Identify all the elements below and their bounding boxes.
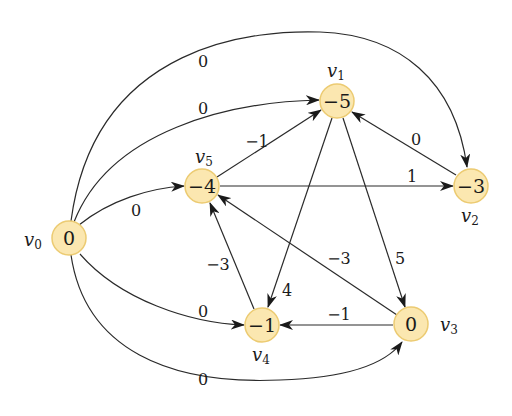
weight-v2-v1: 0 [411,130,421,149]
weight-v0-v3: 0 [198,370,208,389]
node-label: v4 [252,344,270,367]
weight-v0-v4: 0 [198,302,208,321]
node-value: −5 [323,90,351,112]
node-v5: −4 v5 [185,146,219,203]
edge-v1-v4 [268,118,332,307]
node-v2: −3 v2 [454,169,488,228]
edge-v3-v5 [218,195,397,315]
graph-canvas: 0 0 0 0 0 −1 1 0 4 5 −3 −3 −1 0 v0 −5 v1… [0,0,512,416]
node-value: 0 [405,313,417,335]
node-label: v3 [440,314,458,337]
weight-v0-v1: 0 [198,99,208,118]
weight-v1-v3: 5 [395,249,405,268]
node-label: v2 [461,205,479,228]
weight-v5-v1: −1 [245,132,269,151]
edge-v0-v3 [71,255,402,380]
edge-v0-v2 [71,32,467,221]
node-label: v0 [24,229,42,252]
node-v1: −5 v1 [320,60,354,118]
edge-v2-v1 [352,112,456,175]
weight-v1-v4: 4 [282,281,292,300]
node-v4: −1 v4 [245,308,279,367]
node-v3: 0 v3 [394,307,458,341]
node-value: 0 [63,227,75,249]
node-label: v5 [195,146,213,169]
node-value: −4 [188,175,216,197]
edge-v1-v3 [343,118,405,307]
node-v0: 0 v0 [24,221,86,255]
weight-v5-v2: 1 [407,167,417,186]
edge-weights: 0 0 0 0 0 −1 1 0 4 5 −3 −3 −1 [131,52,421,389]
weight-v3-v4: −1 [327,305,351,324]
node-value: −1 [248,314,276,336]
weight-v3-v5: −3 [327,249,351,268]
node-label: v1 [327,60,345,83]
edge-v5-v1 [217,110,321,177]
weight-v0-v5: 0 [131,201,141,220]
weight-v0-v2: 0 [198,52,208,71]
weight-v4-v5: −3 [206,255,230,274]
node-value: −3 [457,175,485,197]
